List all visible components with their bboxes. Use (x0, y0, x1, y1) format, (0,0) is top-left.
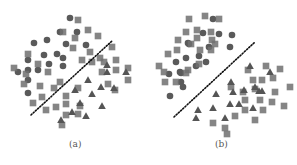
square-marker (25, 51, 32, 58)
circle-marker (216, 31, 223, 38)
square-marker (11, 65, 18, 72)
square-marker (60, 29, 67, 36)
square-marker (43, 107, 50, 114)
triangle-marker (249, 104, 257, 111)
square-marker (51, 85, 58, 92)
square-marker (156, 63, 163, 70)
square-marker (113, 57, 120, 64)
square-marker (196, 61, 203, 68)
circle-marker (63, 41, 70, 48)
square-marker (161, 69, 168, 76)
circle-marker (35, 67, 42, 74)
square-marker (39, 94, 46, 101)
triangle-marker (227, 78, 235, 85)
square-marker (30, 100, 37, 107)
square-marker (260, 107, 267, 114)
square-marker (287, 84, 294, 91)
triangle-marker (221, 114, 229, 121)
square-marker (72, 35, 79, 42)
square-marker (165, 51, 172, 58)
square-marker (277, 66, 284, 73)
square-marker (212, 41, 219, 48)
square-marker (85, 27, 92, 34)
triangle-marker (97, 83, 105, 90)
square-marker (252, 117, 259, 124)
panel-b-label: (b) (215, 139, 228, 149)
square-marker (95, 33, 102, 40)
square-marker (87, 49, 94, 56)
triangle-marker (226, 100, 234, 107)
square-marker (125, 77, 132, 84)
circle-marker (41, 52, 48, 59)
triangle-marker (194, 106, 202, 113)
square-marker (232, 113, 239, 120)
triangle-marker (68, 108, 76, 115)
square-marker (194, 27, 201, 34)
triangle-marker (192, 114, 200, 121)
square-marker (175, 37, 182, 44)
square-marker (23, 71, 30, 78)
circle-marker (180, 84, 187, 91)
triangle-marker (98, 102, 106, 109)
triangle-marker (212, 90, 220, 97)
square-marker (37, 83, 44, 90)
circle-marker (167, 93, 174, 100)
circle-marker (203, 59, 210, 66)
square-marker (174, 47, 181, 54)
circle-marker (200, 30, 207, 37)
square-marker (224, 131, 231, 138)
scatter-figure (0, 0, 297, 165)
triangle-marker (246, 62, 254, 69)
square-marker (183, 70, 190, 77)
square-marker (222, 125, 229, 132)
triangle-marker (84, 76, 92, 83)
square-marker (63, 93, 70, 100)
square-marker (105, 81, 112, 88)
circle-marker (227, 44, 234, 51)
circle-marker (25, 90, 32, 97)
square-marker (109, 44, 116, 51)
square-marker (197, 47, 204, 54)
square-marker (113, 67, 120, 74)
square-marker (186, 16, 193, 23)
decision-boundary-line (174, 42, 255, 117)
square-marker (257, 97, 264, 104)
triangle-marker (209, 104, 217, 111)
triangle-marker (82, 112, 90, 119)
square-marker (210, 120, 217, 127)
square-marker (270, 75, 277, 82)
triangle-marker (76, 99, 84, 106)
circle-marker (173, 59, 180, 66)
circle-marker (67, 15, 74, 22)
square-marker (75, 17, 82, 24)
square-marker (269, 99, 276, 106)
square-marker (250, 77, 257, 84)
square-marker (188, 41, 195, 48)
circle-marker (31, 40, 38, 47)
square-marker (75, 111, 82, 118)
square-marker (202, 13, 209, 20)
circle-marker (60, 55, 67, 62)
circle-marker (83, 42, 90, 49)
circle-marker (25, 57, 32, 64)
square-marker (183, 29, 190, 36)
circle-marker (210, 16, 217, 23)
square-marker (35, 61, 42, 68)
square-marker (259, 77, 266, 84)
square-marker (194, 35, 201, 42)
triangle-marker (88, 90, 96, 97)
square-marker (21, 81, 28, 88)
panel-a-plot (11, 15, 132, 129)
square-marker (272, 89, 279, 96)
panel-b-plot (156, 13, 294, 138)
square-marker (162, 79, 169, 86)
square-marker (63, 101, 70, 108)
square-marker (208, 47, 215, 54)
square-marker (57, 79, 64, 86)
triangle-marker (235, 100, 243, 107)
circle-marker (196, 53, 203, 60)
square-marker (281, 103, 288, 110)
square-marker (70, 45, 77, 52)
square-marker (242, 107, 249, 114)
square-marker (208, 29, 215, 36)
